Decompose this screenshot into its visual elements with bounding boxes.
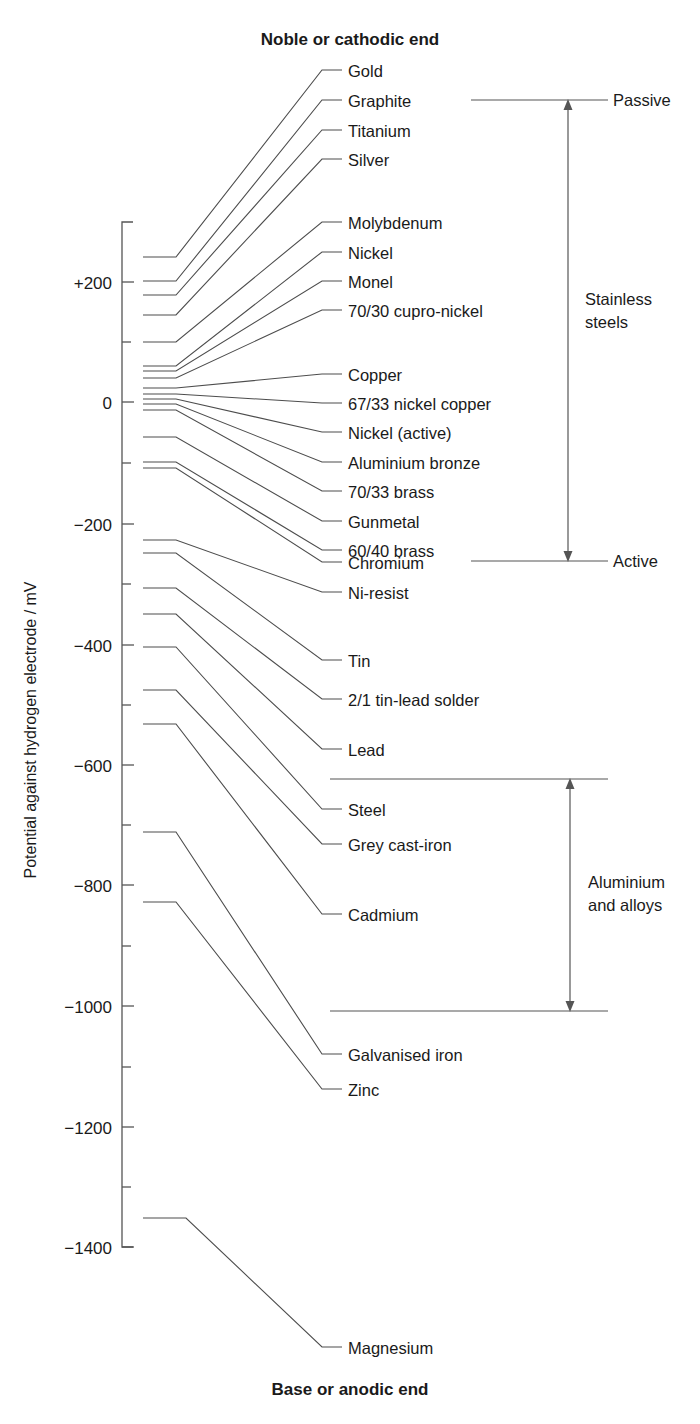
leader-line-cadmium xyxy=(143,724,342,914)
leader-line-gunmetal xyxy=(143,437,342,521)
tick-label: +200 xyxy=(74,274,112,293)
material-labels: Gold Graphite Titanium Silver Molybdenum… xyxy=(348,62,492,1357)
leader-line-steel xyxy=(143,647,342,809)
material-label-nickel-active: Nickel (active) xyxy=(348,424,452,442)
aluminium-alloys-label-line1: Aluminium xyxy=(588,873,665,891)
y-axis-title: Potential against hydrogen electrode / m… xyxy=(22,581,39,878)
leader-line-tin xyxy=(143,553,342,660)
tick-label: −800 xyxy=(74,877,112,896)
tick-label: −1200 xyxy=(64,1119,112,1138)
arrow-head-down-icon xyxy=(566,1001,575,1012)
leader-line-copper xyxy=(143,374,342,388)
stainless-steels-bracket: Passive Active Stainless steels xyxy=(471,91,671,570)
leader-line-galvanised-iron xyxy=(143,832,342,1054)
material-label-gold: Gold xyxy=(348,62,383,80)
material-label-aluminium-bronze: Aluminium bronze xyxy=(348,454,480,472)
leader-line-magnesium xyxy=(143,1218,342,1347)
stainless-steels-label-line2: steels xyxy=(585,313,628,331)
arrow-head-up-icon xyxy=(566,778,575,789)
chart-canvas: Noble or cathodic end xyxy=(0,0,700,1424)
leader-line-aluminium-bronze xyxy=(143,404,342,462)
leader-line-grey-cast-iron xyxy=(143,690,342,844)
leader-line-cupro-nickel xyxy=(143,310,342,378)
material-label-copper: Copper xyxy=(348,366,403,384)
tick-label: −200 xyxy=(74,516,112,535)
material-label-galvanised-iron: Galvanised iron xyxy=(348,1046,463,1064)
leader-line-graphite xyxy=(143,100,342,281)
tick-label: 0 xyxy=(103,394,112,413)
material-label-cupro-nickel: 70/30 cupro-nickel xyxy=(348,302,483,320)
passive-label: Passive xyxy=(613,91,671,109)
leader-line-silver xyxy=(143,159,342,315)
material-label-ni-resist: Ni-resist xyxy=(348,584,409,602)
tick-label: −1000 xyxy=(64,998,112,1017)
leader-line-titanium xyxy=(143,130,342,295)
top-title: Noble or cathodic end xyxy=(261,30,440,49)
arrow-head-down-icon xyxy=(564,551,573,562)
bottom-title: Base or anodic end xyxy=(272,1380,429,1399)
material-label-silver: Silver xyxy=(348,151,390,169)
leader-line-ni-resist xyxy=(143,540,342,592)
material-label-grey-cast-iron: Grey cast-iron xyxy=(348,836,452,854)
leader-lines xyxy=(143,70,342,1347)
tick-label: −1400 xyxy=(64,1239,112,1258)
material-label-zinc: Zinc xyxy=(348,1081,379,1099)
axis-tick-labels: +200 0 −200 −400 −600 −800 −1000 −1200 −… xyxy=(64,274,112,1258)
leader-line-tin-lead-solder xyxy=(143,588,342,699)
leader-line-molybdenum xyxy=(143,222,342,342)
leader-line-gold xyxy=(143,70,342,257)
material-label-70-33-brass: 70/33 brass xyxy=(348,483,434,501)
material-label-steel: Steel xyxy=(348,801,386,819)
tick-label: −600 xyxy=(74,757,112,776)
axis-spine xyxy=(122,222,133,1247)
material-label-cadmium: Cadmium xyxy=(348,906,419,924)
leader-line-lead xyxy=(143,614,342,749)
material-label-graphite: Graphite xyxy=(348,92,411,110)
material-label-lead: Lead xyxy=(348,741,385,759)
tick-label: −400 xyxy=(74,637,112,656)
material-label-nickel: Nickel xyxy=(348,244,393,262)
leader-line-zinc xyxy=(143,902,342,1089)
leader-line-nickel xyxy=(143,252,342,366)
material-label-chromium: Chromium xyxy=(348,554,424,572)
material-label-monel: Monel xyxy=(348,273,393,291)
leader-line-70-33-brass xyxy=(143,410,342,491)
active-label: Active xyxy=(613,552,658,570)
y-axis: +200 0 −200 −400 −600 −800 −1000 −1200 −… xyxy=(22,222,134,1258)
stainless-steels-label-line1: Stainless xyxy=(585,290,652,308)
material-label-titanium: Titanium xyxy=(348,122,411,140)
aluminium-alloys-label-line2: and alloys xyxy=(588,896,662,914)
material-label-molybdenum: Molybdenum xyxy=(348,214,442,232)
material-label-nickel-copper: 67/33 nickel copper xyxy=(348,395,492,413)
material-label-gunmetal: Gunmetal xyxy=(348,513,420,531)
material-label-tin: Tin xyxy=(348,652,370,670)
material-label-magnesium: Magnesium xyxy=(348,1339,433,1357)
arrow-head-up-icon xyxy=(564,99,573,110)
axis-major-ticks xyxy=(122,282,134,1247)
galvanic-series-figure: Noble or cathodic end xyxy=(0,0,700,1424)
material-label-tin-lead-solder: 2/1 tin-lead solder xyxy=(348,691,480,709)
